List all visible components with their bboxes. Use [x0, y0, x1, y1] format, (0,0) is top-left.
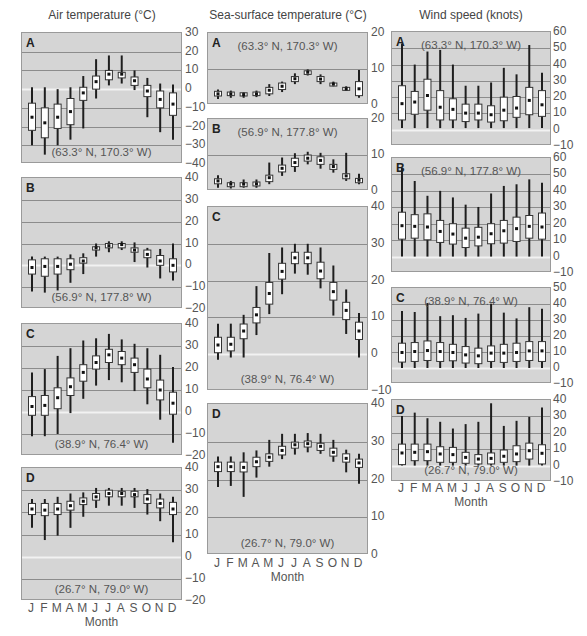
month-tick-label: M — [77, 601, 87, 615]
box-5 — [266, 163, 273, 185]
location-label: (38.9° N, 76.4° W) — [392, 295, 550, 307]
y-tick-label: 10 — [371, 148, 384, 160]
air-panel-b: B(56.9° N, 177.8° W) — [21, 177, 182, 308]
box-6 — [462, 318, 469, 368]
box-2 — [411, 181, 418, 257]
box-4 — [67, 87, 74, 139]
y-tick-label: 0 — [185, 550, 192, 562]
box-4 — [253, 450, 260, 477]
y-tick-label: 50 — [553, 167, 566, 179]
box-2 — [41, 369, 48, 436]
box-6 — [279, 158, 286, 176]
box-3 — [240, 315, 247, 358]
month-tick-label: A — [435, 481, 443, 495]
box-2 — [411, 413, 418, 466]
box-12 — [356, 454, 363, 484]
location-label: (56.9° N, 177.8° W) — [392, 165, 550, 177]
box-7 — [291, 73, 298, 84]
wind-x-axis-label: Month — [391, 495, 551, 509]
y-tick-label: 50 — [553, 41, 566, 53]
y-tick-label: 0 — [553, 123, 560, 135]
box-11 — [157, 493, 164, 521]
box-9 — [131, 242, 138, 262]
location-label: (26.7° N, 79.0° W) — [22, 583, 181, 595]
y-tick-label: 20 — [185, 45, 198, 57]
panel-letter: C — [26, 327, 35, 341]
y-tick-label: 30 — [185, 339, 198, 351]
box-10 — [330, 82, 337, 87]
box-12 — [170, 84, 177, 139]
box-9 — [131, 70, 138, 90]
month-tick-label: A — [486, 481, 494, 495]
y-tick-label: 10 — [185, 383, 198, 395]
y-tick-label: −10 — [185, 101, 205, 113]
month-tick-label: M — [263, 556, 273, 570]
box-7 — [105, 488, 112, 506]
month-tick-label: M — [52, 601, 62, 615]
box-12 — [356, 313, 363, 358]
box-8 — [118, 339, 125, 382]
box-8 — [304, 433, 311, 452]
y-tick-label: −40 — [185, 157, 205, 169]
box-5 — [449, 65, 456, 129]
y-tick-label: 30 — [553, 74, 566, 86]
box-1 — [29, 499, 36, 528]
y-tick-label: 40 — [185, 171, 198, 183]
y-tick-label: 20 — [553, 426, 566, 438]
y-tick-label: −10 — [553, 377, 573, 389]
y-tick-label: 20 — [371, 274, 384, 286]
y-tick-label: 10 — [553, 442, 566, 454]
box-8 — [488, 193, 495, 256]
air-panel-d: D(26.7° N, 79.0° W) — [21, 467, 182, 600]
box-4 — [437, 50, 444, 128]
box-1 — [29, 257, 36, 292]
box-2 — [227, 181, 234, 189]
y-tick-label: −10 — [185, 572, 205, 584]
y-tick-label: −10 — [553, 475, 573, 487]
wind-panel-d: D(26.7° N, 79.0° W) — [391, 399, 551, 481]
month-tick-label: J — [398, 481, 404, 495]
month-tick-label: M — [447, 481, 457, 495]
month-tick-label: J — [291, 556, 297, 570]
box-3 — [54, 497, 61, 536]
y-tick-label: 10 — [185, 63, 198, 75]
location-label: (56.9° N, 177.8° W) — [208, 126, 367, 138]
box-4 — [67, 493, 74, 527]
y-tick-label: −20 — [185, 594, 205, 606]
box-1 — [29, 372, 36, 436]
box-2 — [41, 499, 48, 540]
wind-speed-column-title: Wind speed (knots) — [390, 8, 552, 22]
air-month-axis: JFMAMJJASOND — [21, 601, 182, 615]
wind-panel-a: A(63.3° N, 170.3° W) — [391, 31, 551, 145]
box-6 — [93, 244, 100, 257]
box-12 — [539, 309, 546, 368]
month-tick-label: D — [168, 601, 177, 615]
box-3 — [240, 92, 247, 98]
location-label: (63.3° N, 170.3° W) — [392, 39, 550, 51]
y-tick-label: 30 — [185, 26, 198, 38]
box-5 — [266, 440, 273, 467]
sst-boxplot-d — [208, 404, 368, 554]
month-tick-label: F — [40, 601, 47, 615]
month-tick-label: M — [421, 481, 431, 495]
box-6 — [93, 59, 100, 98]
month-tick-label: M — [238, 556, 248, 570]
panel-letter: D — [212, 407, 221, 421]
box-6 — [462, 424, 469, 465]
y-tick-label: 0 — [185, 258, 192, 270]
y-tick-label: 20 — [185, 361, 198, 373]
box-10 — [513, 318, 520, 368]
air-panel-c: C(38.9° N, 76.4° W) — [21, 323, 182, 455]
y-tick-label: 10 — [371, 62, 384, 74]
box-11 — [526, 307, 533, 368]
box-10 — [513, 74, 520, 128]
box-1 — [399, 311, 406, 368]
y-tick-label: −10 — [185, 280, 205, 292]
box-5 — [266, 84, 273, 96]
y-tick-label: 20 — [185, 505, 198, 517]
month-tick-label: J — [474, 481, 480, 495]
box-3 — [424, 196, 431, 257]
box-8 — [304, 244, 311, 275]
box-3 — [240, 452, 247, 497]
month-tick-label: D — [537, 481, 546, 495]
